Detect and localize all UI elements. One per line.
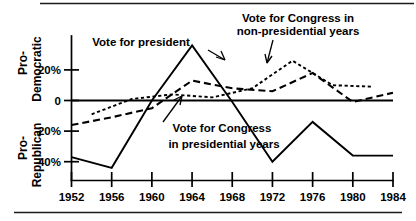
x-axis-ticks bbox=[72, 172, 394, 187]
annotation-label-nonpresidential-line1: Vote for Congress in bbox=[242, 12, 354, 24]
chart-figure: Pro- Democratic Pro- Republican 20%020%4… bbox=[0, 0, 416, 221]
y-tick-label-1: 0 bbox=[55, 95, 61, 107]
x-tick-label-1: 1956 bbox=[99, 191, 125, 203]
x-tick-label-4: 1968 bbox=[219, 191, 245, 203]
x-axis-tick-labels: 195219561960196419681972197619801984 bbox=[59, 191, 407, 203]
annotation-vote-for-congress-presidential: Vote for Congress in presidential years bbox=[163, 96, 280, 150]
y-tick-label-3: 40% bbox=[38, 156, 61, 168]
x-tick-label-6: 1976 bbox=[300, 191, 326, 203]
x-tick-label-0: 1952 bbox=[59, 191, 85, 203]
x-axis: 195219561960196419681972197619801984 bbox=[59, 172, 407, 203]
x-tick-label-8: 1984 bbox=[380, 191, 406, 203]
x-tick-label-2: 1960 bbox=[139, 191, 165, 203]
series-line-congress-presidential bbox=[72, 73, 394, 125]
y-tick-label-0: 20% bbox=[38, 64, 61, 76]
y-tick-label-2: 20% bbox=[38, 125, 61, 137]
annotation-vote-for-congress-nonpresidential: Vote for Congress in non-presidential ye… bbox=[237, 12, 360, 63]
annotation-label-presidential-line1: Vote for Congress bbox=[173, 122, 272, 134]
annotation-vote-for-president: Vote for president bbox=[92, 36, 225, 60]
vote-margin-line-chart: Pro- Democratic Pro- Republican 20%020%4… bbox=[0, 0, 416, 221]
annotation-label-presidential-line2: in presidential years bbox=[168, 138, 279, 150]
y-axis-group-label-democratic-line1: Pro- bbox=[16, 51, 30, 75]
x-tick-label-3: 1964 bbox=[179, 191, 205, 203]
y-axis-group-label-republican-line1: Pro- bbox=[16, 136, 30, 160]
annotation-label-president: Vote for president bbox=[92, 36, 190, 48]
x-tick-label-7: 1980 bbox=[340, 191, 366, 203]
annotation-label-nonpresidential-line2: non-presidential years bbox=[237, 25, 360, 37]
x-tick-label-5: 1972 bbox=[260, 191, 286, 203]
